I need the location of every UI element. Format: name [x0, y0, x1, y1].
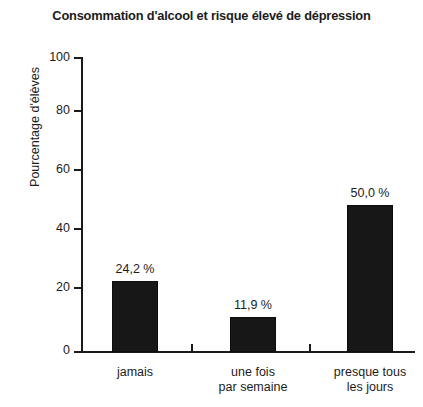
y-axis-tick-40: [74, 228, 82, 230]
x-axis-tick-2: [309, 344, 311, 352]
bar-value-label-jamais: 24,2 %: [95, 263, 175, 276]
x-axis-category-une-fois-line1: une fois: [231, 365, 275, 379]
y-axis-tick-60: [74, 169, 82, 171]
y-axis-label-80: 80: [24, 104, 70, 117]
x-axis-category-jamais: jamais: [85, 365, 185, 380]
bar-value-label-presque-tous-les-jours: 50,0 %: [330, 187, 410, 200]
x-axis-category-presque-tous-les-jours: presque tous les jours: [320, 365, 420, 395]
y-axis-tick-80: [74, 110, 82, 112]
x-axis-category-une-fois-line2: par semaine: [203, 380, 303, 395]
y-axis-label-0: 0: [24, 344, 70, 357]
y-axis-tick-100: [74, 57, 82, 59]
y-axis-tick-20: [74, 287, 82, 289]
y-axis-label-20: 20: [24, 281, 70, 294]
bar-une-fois-par-semaine: [230, 317, 276, 352]
y-axis-label-40: 40: [24, 222, 70, 235]
x-axis-category-une-fois-par-semaine: une fois par semaine: [203, 365, 303, 395]
x-axis-category-presque-tous-line2: les jours: [320, 380, 420, 395]
y-axis-label-100: 100: [24, 51, 70, 64]
bar-jamais: [112, 281, 158, 352]
plot-area: 100 80 60 40 20 0 24,2 % 11,9 % 50,0 % j…: [0, 0, 423, 407]
chart-container: Consommation d'alcool et risque élevé de…: [0, 0, 423, 407]
x-axis-tick-1: [191, 344, 193, 352]
y-axis-label-60: 60: [24, 163, 70, 176]
bar-value-label-une-fois-par-semaine: 11,9 %: [213, 299, 293, 312]
x-axis-category-jamais-line1: jamais: [117, 365, 153, 379]
y-axis-line: [81, 57, 83, 353]
x-axis-category-presque-tous-line1: presque tous: [334, 365, 406, 379]
y-axis-tick-0: [74, 351, 82, 353]
bar-presque-tous-les-jours: [347, 205, 393, 352]
